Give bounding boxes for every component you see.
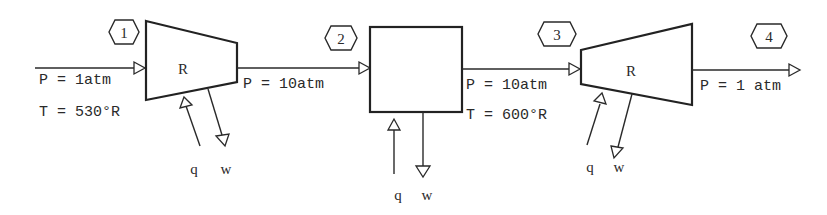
turbine: R q w [581, 24, 692, 175]
turbine-label: R [626, 63, 636, 79]
state1-pressure: P = 1atm [39, 72, 111, 89]
flow-arrow-icon [134, 62, 145, 74]
compressor-label: R [178, 61, 188, 77]
state3-pressure: P = 10atm [466, 77, 547, 94]
state4-pressure: P = 1 atm [700, 78, 781, 95]
state2-pressure: P = 10atm [243, 76, 324, 93]
heat-in-arrow-icon [388, 119, 400, 130]
heat-in-arrow-icon [180, 97, 192, 108]
state-3-label: 3 [553, 27, 561, 43]
stream-3 [462, 63, 580, 75]
process-flow-diagram: P = 1atm T = 530°R 1 R q w P = 10atm 2 q… [0, 0, 827, 215]
state-1-marker: 1 [109, 20, 139, 44]
work-out-arrow-icon [416, 166, 430, 177]
compressor-work-label: w [221, 161, 232, 177]
heater-heat-label: q [394, 187, 402, 203]
turbine-work-label: w [614, 159, 625, 175]
state-1-label: 1 [120, 25, 128, 41]
turbine-heat-label: q [586, 159, 594, 175]
state1-temperature: T = 530°R [39, 104, 120, 121]
flow-arrow-icon [569, 63, 580, 75]
compressor: R q w [146, 21, 237, 177]
state3-temperature: T = 600°R [466, 107, 547, 124]
heater: q w [370, 27, 462, 203]
stream-2 [237, 62, 370, 74]
heat-in-arrow-icon [594, 93, 606, 104]
state-4-marker: 4 [751, 24, 787, 48]
flow-arrow-icon [359, 62, 370, 74]
compressor-heat-label: q [190, 161, 198, 177]
state-3-marker: 3 [538, 22, 576, 46]
flow-arrow-icon [789, 64, 800, 76]
state-2-label: 2 [337, 31, 345, 47]
heater-work-label: w [422, 187, 433, 203]
state-4-label: 4 [765, 29, 773, 45]
state-2-marker: 2 [325, 26, 357, 50]
work-out-arrow-icon [216, 134, 229, 146]
outlet-stream [692, 64, 800, 76]
work-out-arrow-icon [611, 146, 623, 158]
